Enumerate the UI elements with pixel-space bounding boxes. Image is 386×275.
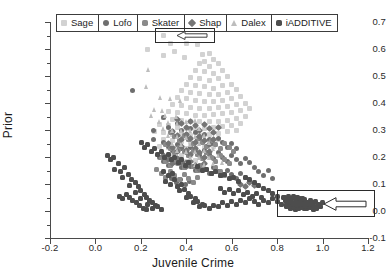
data-point-sage <box>216 119 221 124</box>
data-point-sage <box>216 61 221 66</box>
data-point-lofo <box>247 160 252 165</box>
data-point-dalex <box>178 98 182 103</box>
data-point-sage <box>182 55 187 60</box>
data-point-iadditive <box>111 155 116 160</box>
data-point-sage <box>225 104 230 109</box>
data-point-dalex <box>179 142 183 147</box>
data-point-sage <box>202 69 207 74</box>
legend-item-iadditive[interactable]: iADDITIVE <box>272 15 337 31</box>
data-point-sage <box>145 47 150 52</box>
data-point-sage <box>238 94 243 99</box>
data-point-dalex <box>197 141 201 146</box>
data-point-iadditive <box>152 146 157 151</box>
data-point-sage <box>220 83 225 88</box>
data-point-iadditive <box>133 190 138 195</box>
data-point-lofo <box>151 128 156 133</box>
data-point-lofo <box>261 173 266 178</box>
data-point-sage <box>184 96 189 101</box>
data-point-iadditive <box>145 142 150 147</box>
data-point-iadditive <box>168 182 173 187</box>
data-point-iadditive <box>318 204 323 209</box>
data-point-sage <box>193 83 198 88</box>
data-point-sage <box>220 111 225 116</box>
data-point-sage <box>197 91 202 96</box>
data-point-sage <box>243 101 248 106</box>
data-point-iadditive <box>144 207 149 212</box>
top-callout-box <box>155 28 215 43</box>
data-point-sage <box>207 106 212 111</box>
data-point-dalex <box>207 140 211 145</box>
data-point-sage <box>200 52 205 57</box>
data-point-dalex <box>211 161 215 166</box>
data-point-dalex <box>168 96 172 101</box>
data-point-iadditive <box>139 140 144 145</box>
data-point-sage <box>220 98 225 103</box>
x-tick-label: 0.0 <box>75 243 115 253</box>
data-point-dalex <box>220 160 224 165</box>
data-point-dalex <box>144 84 148 89</box>
data-point-dalex <box>170 141 174 146</box>
data-point-sage <box>229 82 234 87</box>
x-tick-label: 0.2 <box>121 243 161 253</box>
data-point-sage <box>161 53 166 58</box>
data-point-sage <box>229 96 234 101</box>
data-point-dalex <box>197 155 201 160</box>
data-point-dalex <box>158 95 162 100</box>
legend-marker-icon <box>231 20 237 26</box>
data-point-dalex <box>202 148 206 153</box>
data-point-iadditive <box>120 175 125 180</box>
legend-marker-icon <box>103 20 109 26</box>
data-point-sage <box>184 111 189 116</box>
data-point-sage <box>197 61 202 66</box>
data-point-iadditive <box>216 204 221 209</box>
data-point-sage <box>220 68 225 73</box>
data-point-dalex <box>184 149 188 154</box>
data-point-dalex <box>207 155 211 160</box>
data-point-iadditive <box>159 149 164 154</box>
data-point-iadditive <box>307 202 312 207</box>
data-point-iadditive <box>127 183 132 188</box>
bottom-callout-arrow-icon <box>323 197 367 211</box>
data-point-sage <box>211 71 216 76</box>
data-point-sage <box>207 51 212 56</box>
data-point-iadditive <box>112 167 117 172</box>
data-point-dalex <box>175 134 179 139</box>
legend-label: Skater <box>152 18 179 28</box>
data-point-iadditive <box>170 171 175 176</box>
data-point-sage <box>179 88 184 93</box>
data-point-sage <box>207 92 212 97</box>
data-point-iadditive <box>243 200 248 205</box>
legend-item-dalex[interactable]: Dalex <box>227 15 271 31</box>
data-point-skater <box>227 161 232 166</box>
data-point-sage <box>193 68 198 73</box>
data-point-iadditive <box>122 165 127 170</box>
data-point-sage <box>188 90 193 95</box>
data-point-sage <box>170 102 175 107</box>
data-point-sage <box>197 76 202 81</box>
data-point-iadditive <box>159 207 164 212</box>
legend-marker-icon <box>142 20 148 26</box>
data-point-iadditive <box>259 195 264 200</box>
data-point-iadditive <box>172 155 177 160</box>
data-point-dalex <box>188 128 192 133</box>
data-point-sage <box>207 64 212 69</box>
data-point-sage <box>197 106 202 111</box>
data-point-iadditive <box>116 161 121 166</box>
legend-item-lofo[interactable]: Lofo <box>99 15 138 31</box>
data-point-dalex <box>193 118 197 123</box>
data-point-sage <box>202 84 207 89</box>
data-point-sage <box>229 123 234 128</box>
data-point-dalex <box>163 113 167 118</box>
data-point-skater <box>191 180 196 185</box>
legend-item-sage[interactable]: Sage <box>57 15 99 31</box>
x-tick-label: 1.0 <box>303 243 343 253</box>
data-point-dalex <box>193 134 197 139</box>
data-point-dalex <box>193 149 197 154</box>
data-point-dalex <box>211 146 215 151</box>
data-point-sage <box>225 74 230 79</box>
data-point-dalex <box>179 128 183 133</box>
data-point-sage <box>238 121 243 126</box>
y-axis-title: Prior <box>1 95 15 155</box>
top-callout-marker <box>161 33 166 38</box>
data-point-sage <box>172 49 177 54</box>
